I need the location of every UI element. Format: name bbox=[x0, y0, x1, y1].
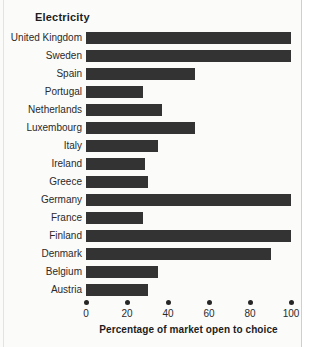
bar-category-label: Spain bbox=[0, 67, 82, 80]
x-axis-tick-label: 60 bbox=[189, 308, 229, 319]
chart-bar-row: Finland bbox=[0, 228, 300, 246]
chart-bar-row: Sweden bbox=[0, 48, 300, 66]
bar-category-label: Luxembourg bbox=[0, 121, 82, 134]
chart-bar bbox=[86, 122, 195, 134]
chart-bar-row: Austria bbox=[0, 282, 300, 300]
x-axis-tick-label: 100 bbox=[271, 308, 311, 319]
chart-bar-row: Italy bbox=[0, 138, 300, 156]
bar-category-label: Finland bbox=[0, 229, 82, 242]
bar-category-label: Denmark bbox=[0, 247, 82, 260]
chart-bar bbox=[86, 32, 291, 44]
x-axis-tick-label: 80 bbox=[230, 308, 270, 319]
x-axis-title: Percentage of market open to choice bbox=[86, 324, 291, 335]
chart-title: Electricity bbox=[35, 11, 90, 23]
chart-bar bbox=[86, 50, 291, 62]
bar-category-label: Netherlands bbox=[0, 103, 82, 116]
x-axis-tick-dot bbox=[125, 300, 130, 305]
x-axis-tick-dot bbox=[289, 300, 294, 305]
bar-category-label: Portugal bbox=[0, 85, 82, 98]
chart-bar-row: Spain bbox=[0, 66, 300, 84]
bar-category-label: Belgium bbox=[0, 265, 82, 278]
chart-bar bbox=[86, 212, 143, 224]
bar-category-label: France bbox=[0, 211, 82, 224]
plot-area: United KingdomSwedenSpainPortugalNetherl… bbox=[0, 30, 300, 302]
chart-bar bbox=[86, 86, 143, 98]
chart-bar-row: Denmark bbox=[0, 246, 300, 264]
chart-bar bbox=[86, 194, 291, 206]
chart-bar bbox=[86, 266, 158, 278]
chart-bar bbox=[86, 284, 148, 296]
page-margin-right bbox=[302, 0, 318, 347]
bar-category-label: Sweden bbox=[0, 49, 82, 62]
bar-category-label: Germany bbox=[0, 193, 82, 206]
bar-category-label: Ireland bbox=[0, 157, 82, 170]
x-axis-tick-label: 0 bbox=[66, 308, 106, 319]
x-axis-tick-dot bbox=[207, 300, 212, 305]
chart-bar-row: Greece bbox=[0, 174, 300, 192]
bar-category-label: United Kingdom bbox=[0, 31, 82, 44]
chart-bar bbox=[86, 140, 158, 152]
x-axis-tick-label: 20 bbox=[107, 308, 147, 319]
x-axis-tick-label: 40 bbox=[148, 308, 188, 319]
bar-category-label: Italy bbox=[0, 139, 82, 152]
chart-bar-row: United Kingdom bbox=[0, 30, 300, 48]
chart-bar-row: France bbox=[0, 210, 300, 228]
bar-category-label: Austria bbox=[0, 283, 82, 296]
chart-bar bbox=[86, 176, 148, 188]
x-axis-tick-dot bbox=[84, 300, 89, 305]
x-axis-tick-dot bbox=[166, 300, 171, 305]
chart-bar-row: Belgium bbox=[0, 264, 300, 282]
chart-bar-row: Netherlands bbox=[0, 102, 300, 120]
bar-category-label: Greece bbox=[0, 175, 82, 188]
chart-bar bbox=[86, 248, 271, 260]
chart-bar bbox=[86, 104, 162, 116]
chart-bar bbox=[86, 158, 145, 170]
chart-bar bbox=[86, 230, 291, 242]
chart-figure: Electricity United KingdomSwedenSpainPor… bbox=[0, 0, 318, 347]
chart-bar-row: Germany bbox=[0, 192, 300, 210]
chart-bar-row: Ireland bbox=[0, 156, 300, 174]
chart-bar-row: Portugal bbox=[0, 84, 300, 102]
x-axis-tick-dot bbox=[248, 300, 253, 305]
x-axis: Percentage of market open to choice 0204… bbox=[0, 300, 300, 347]
chart-bar bbox=[86, 68, 195, 80]
chart-bar-row: Luxembourg bbox=[0, 120, 300, 138]
